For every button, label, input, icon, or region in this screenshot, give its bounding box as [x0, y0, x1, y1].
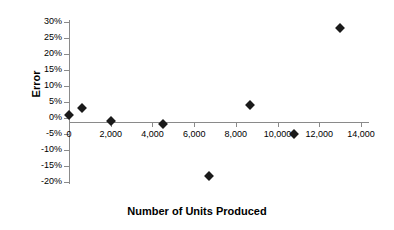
- y-tick-label: 20%: [28, 48, 62, 58]
- y-tick-mark: [64, 70, 69, 71]
- y-tick-label: 5%: [28, 96, 62, 106]
- x-tick-mark: [194, 122, 195, 127]
- y-tick-mark: [64, 182, 69, 183]
- data-point: [77, 103, 87, 113]
- y-tick-label: -10%: [28, 144, 62, 154]
- y-tick-mark: [64, 150, 69, 151]
- x-tick-mark: [278, 122, 279, 127]
- x-tick-mark: [319, 122, 320, 127]
- y-tick-label: -15%: [28, 160, 62, 170]
- y-tick-label: 25%: [28, 32, 62, 42]
- y-tick-mark: [64, 86, 69, 87]
- x-tick-mark: [236, 122, 237, 127]
- data-point: [158, 119, 168, 129]
- x-tick-mark: [152, 122, 153, 127]
- x-tick-label: 6,000: [172, 129, 216, 139]
- y-axis-line: [69, 20, 70, 184]
- x-axis-title: Number of Units Produced: [0, 205, 394, 217]
- y-tick-mark: [64, 102, 69, 103]
- y-tick-mark: [64, 166, 69, 167]
- x-tick-mark: [361, 122, 362, 127]
- y-tick-label: 10%: [28, 80, 62, 90]
- x-tick-label: 12,000: [297, 129, 341, 139]
- y-tick-mark: [64, 38, 69, 39]
- y-tick-label: 0%: [28, 112, 62, 122]
- y-tick-label: 30%: [28, 16, 62, 26]
- scatter-chart: Error 30%25%20%15%10%5%0%-5%-10%-15%-20%…: [0, 0, 394, 230]
- x-tick-label: 0: [47, 129, 91, 139]
- data-point: [335, 23, 345, 33]
- y-tick-mark: [64, 54, 69, 55]
- y-tick-mark: [64, 22, 69, 23]
- y-tick-label: 15%: [28, 64, 62, 74]
- y-tick-label: -20%: [28, 176, 62, 186]
- x-tick-label: 8,000: [214, 129, 258, 139]
- x-tick-mark: [69, 122, 70, 127]
- data-point: [106, 116, 116, 126]
- data-point: [204, 171, 214, 181]
- x-tick-label: 14,000: [339, 129, 383, 139]
- x-tick-label: 2,000: [89, 129, 133, 139]
- data-point: [246, 100, 256, 110]
- x-tick-label: 4,000: [130, 129, 174, 139]
